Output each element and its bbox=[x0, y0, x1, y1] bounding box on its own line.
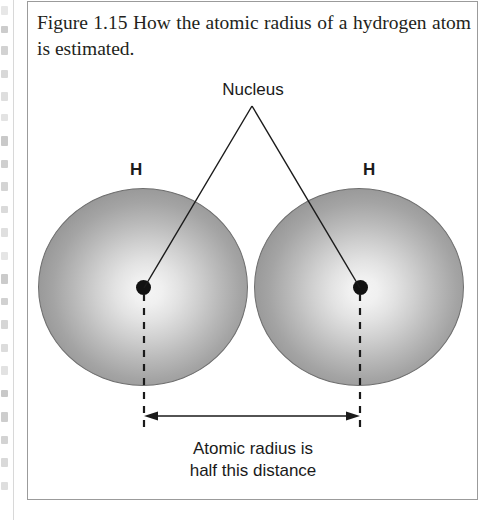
hydrogen-molecule-diagram: H H Nucleus Atomic radius is half this d… bbox=[28, 2, 479, 501]
page-edge-fragment bbox=[1, 6, 8, 15]
page-edge-fragment bbox=[1, 436, 8, 444]
dimension-annotation: Atomic radius is half this distance bbox=[124, 438, 382, 482]
page-edge-fragment bbox=[1, 160, 8, 168]
page-edge-fragment bbox=[1, 206, 8, 213]
nucleus-right-dot bbox=[353, 280, 368, 295]
page-edge-fragment bbox=[1, 252, 8, 260]
page-edge-fragment bbox=[1, 482, 8, 490]
page-edge-fragment bbox=[1, 46, 8, 55]
dimension-annotation-line-2: half this distance bbox=[124, 460, 382, 482]
dimension-annotation-line-1: Atomic radius is bbox=[124, 438, 382, 460]
page-edge-fragment bbox=[1, 366, 8, 375]
page-edge-fragment bbox=[1, 182, 8, 191]
page-edge-fragment bbox=[1, 70, 8, 78]
page-edge-fragment bbox=[1, 390, 8, 397]
page-edge-fragment bbox=[1, 92, 8, 101]
figure-page: Figure 1.15 How the atomic radius of a h… bbox=[0, 0, 502, 520]
page-edge-fragment bbox=[1, 344, 8, 352]
page-edge-fragment bbox=[1, 320, 8, 329]
page-edge-fragment bbox=[1, 136, 8, 146]
page-edge-fragment bbox=[1, 298, 8, 305]
page-edge-rule bbox=[13, 0, 14, 520]
figure-box: Figure 1.15 How the atomic radius of a h… bbox=[27, 1, 478, 500]
dimension-arrow-head-left bbox=[144, 412, 158, 421]
page-edge-fragment bbox=[1, 228, 8, 237]
page-edge-fragment bbox=[1, 458, 8, 467]
page-edge-fragment bbox=[1, 274, 8, 284]
nucleus-left-dot bbox=[136, 280, 151, 295]
atom-label-left: H bbox=[130, 160, 143, 180]
page-edge-fragment bbox=[1, 114, 8, 121]
atom-label-right: H bbox=[363, 160, 376, 180]
page-edge-fragment bbox=[1, 412, 8, 422]
nucleus-label: Nucleus bbox=[198, 80, 308, 100]
page-edge-fragment bbox=[1, 26, 8, 33]
dimension-arrow-head-right bbox=[346, 412, 360, 421]
